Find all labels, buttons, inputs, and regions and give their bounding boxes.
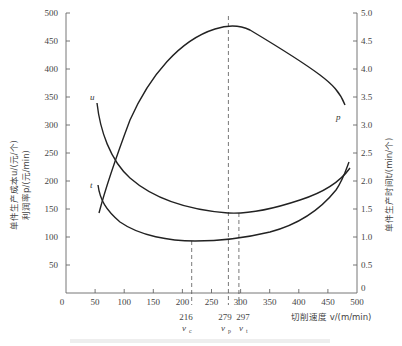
curve-t	[98, 162, 349, 241]
svg-text:300: 300	[234, 297, 248, 307]
curve-p	[99, 26, 345, 213]
curve-u	[97, 103, 350, 213]
y-left-title-line2: 利润率p/(元/min)	[21, 150, 31, 220]
svg-text:v: v	[221, 323, 225, 333]
right-ticks	[353, 13, 357, 265]
curve-label-u: u	[90, 92, 95, 102]
figure-caption	[70, 339, 330, 343]
left-ticks	[66, 13, 70, 265]
svg-text:0: 0	[361, 283, 366, 293]
curve-label-t: t	[90, 180, 93, 190]
marker-label-vt: 297 v t	[236, 312, 250, 334]
chart-canvas: 50 100 150 200 250 300 350 400 450 500 0…	[0, 0, 402, 346]
svg-text:350: 350	[45, 92, 59, 102]
svg-text:p: p	[228, 328, 231, 334]
svg-text:279: 279	[218, 312, 232, 322]
svg-text:400: 400	[45, 64, 59, 74]
svg-text:0: 0	[60, 297, 65, 307]
marker-label-vc: 216 v c	[179, 312, 193, 334]
svg-text:500: 500	[350, 297, 364, 307]
svg-text:2.0: 2.0	[361, 176, 373, 186]
y-right-title: 单件生产时间t/(min/个)	[384, 138, 394, 233]
svg-text:v: v	[239, 323, 243, 333]
svg-text:400: 400	[292, 297, 306, 307]
marker-label-vp: 279 v p	[218, 312, 232, 334]
svg-text:250: 250	[205, 297, 219, 307]
x-ticks	[95, 289, 328, 293]
svg-text:c: c	[189, 328, 192, 334]
svg-text:350: 350	[263, 297, 277, 307]
svg-text:250: 250	[45, 148, 59, 158]
svg-text:300: 300	[45, 120, 59, 130]
left-tick-labels: 50 100 150 200 250 300 350 400 450 500	[45, 8, 59, 270]
y-left-title-line1: 单件生产成本u/(元/个)	[9, 140, 19, 230]
svg-text:t: t	[246, 328, 248, 334]
svg-text:200: 200	[176, 297, 190, 307]
svg-text:216: 216	[179, 312, 193, 322]
svg-text:50: 50	[91, 297, 101, 307]
plot-frame	[66, 13, 357, 293]
svg-text:450: 450	[45, 36, 59, 46]
svg-text:v: v	[182, 323, 186, 333]
svg-text:3.0: 3.0	[361, 120, 373, 130]
curve-label-p: p	[335, 112, 341, 122]
svg-text:5.0: 5.0	[361, 8, 373, 18]
right-tick-labels: 0 0.5 1.0 1.5 2.0 2.5 3.0 3.5 4.0 4.5 5.…	[361, 8, 373, 293]
x-tick-labels: 0 50 100 150 200 250 300 350 400 450 500	[60, 297, 365, 307]
svg-text:1.0: 1.0	[361, 232, 373, 242]
svg-text:0.5: 0.5	[361, 260, 373, 270]
svg-text:150: 150	[147, 297, 161, 307]
svg-text:1.5: 1.5	[361, 204, 373, 214]
x-axis-title: 切削速度 v/(m/min)	[291, 312, 371, 322]
svg-text:150: 150	[45, 204, 59, 214]
svg-text:4.5: 4.5	[361, 36, 373, 46]
svg-text:500: 500	[45, 8, 59, 18]
svg-text:2.5: 2.5	[361, 148, 373, 158]
svg-text:100: 100	[117, 297, 131, 307]
svg-text:4.0: 4.0	[361, 64, 373, 74]
svg-text:100: 100	[45, 232, 59, 242]
svg-text:297: 297	[236, 312, 250, 322]
svg-text:200: 200	[45, 176, 59, 186]
svg-text:3.5: 3.5	[361, 92, 373, 102]
svg-text:50: 50	[49, 260, 59, 270]
svg-text:450: 450	[321, 297, 335, 307]
